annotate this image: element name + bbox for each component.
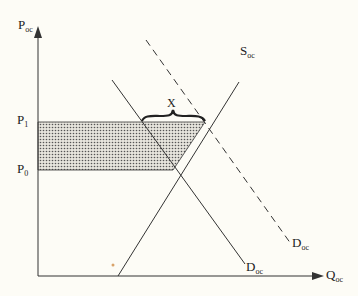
demand-shifted-label: Doc [292,236,309,252]
y-axis-arrow-icon [34,26,42,38]
x-axis-arrow-icon [312,272,324,280]
stray-mark [112,264,115,267]
annotation-x: X [167,97,176,109]
supply-curve [118,82,239,276]
supply-demand-diagram: Poc Qoc P1 P0 Soc Doc Doc X [0,0,358,296]
y-axis-label: Poc [18,18,33,34]
demand-label: Doc [246,260,263,276]
brace-icon [142,110,205,121]
demand-curve [112,80,245,264]
x-axis-label: Qoc [326,268,343,284]
price-label-p0: P0 [17,162,28,178]
price-label-p1: P1 [17,113,28,129]
supply-label: Soc [240,44,255,60]
shaded-area [38,122,205,170]
